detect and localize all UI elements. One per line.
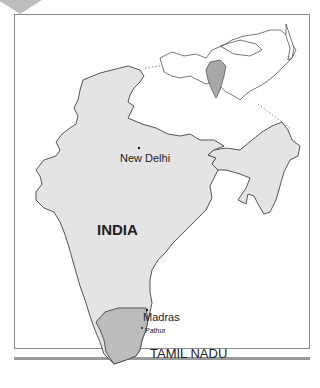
pathur-dot — [141, 327, 143, 329]
tamil-nadu-shape — [96, 308, 148, 364]
city-label-pathur: Pathur — [145, 327, 166, 334]
city-label-madras: Madras — [143, 311, 180, 323]
northeast-india-shape — [208, 122, 300, 214]
new-delhi-dot — [138, 147, 140, 149]
city-label-new-delhi: New Delhi — [120, 152, 170, 164]
region-label-tamil-nadu: TAMIL NADU — [150, 346, 227, 361]
asia-inset — [160, 24, 296, 100]
country-label: INDIA — [97, 221, 138, 238]
